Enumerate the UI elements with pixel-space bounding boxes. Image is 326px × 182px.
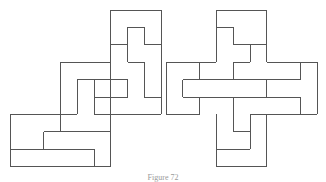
dissection-diagram <box>0 0 326 182</box>
dissection-right-figure <box>166 10 317 167</box>
dissection-left-figure <box>10 10 161 167</box>
figure-caption: Figure 72 <box>0 174 326 182</box>
